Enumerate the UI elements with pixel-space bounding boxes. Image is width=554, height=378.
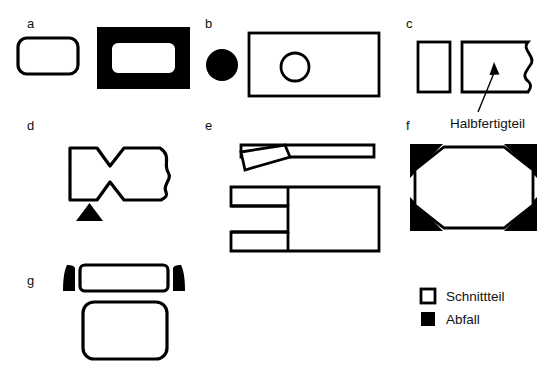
technical-diagram-figure: a b c Halbfertigte	[0, 0, 554, 378]
legend-label-abfall: Abfall	[446, 312, 480, 327]
panel-d-part-shape	[70, 148, 169, 200]
panel-e-label: e	[205, 118, 212, 133]
panel-d-label: d	[27, 118, 34, 133]
panel-c-label: c	[406, 16, 413, 31]
panel-f-label: f	[406, 118, 410, 133]
panel-f-part-octagon	[415, 147, 533, 228]
halbfertigteil-label: Halbfertigteil	[450, 116, 525, 131]
panel-b-part-rect	[249, 33, 379, 96]
panel-b-part-hole	[281, 53, 309, 81]
panel-a-part-rounded-rect	[18, 38, 78, 74]
panel-b-label: b	[205, 16, 212, 31]
panel-g-part-strip	[80, 265, 168, 291]
legend-item-schnittteil: Schnittteil	[421, 289, 505, 304]
panel-b-waste-slug	[206, 49, 238, 81]
legend-label-schnittteil: Schnittteil	[446, 289, 505, 304]
diagram-canvas: a b c Halbfertigte	[0, 0, 554, 378]
legend-swatch-abfall	[421, 312, 435, 326]
panel-g-label: g	[27, 273, 34, 288]
legend-item-abfall: Abfall	[421, 312, 480, 327]
legend-swatch-schnittteil	[421, 289, 435, 303]
panel-g-part-rounded-rect	[83, 302, 167, 359]
panel-c-part-rect	[418, 42, 450, 92]
panel-a-label: a	[27, 16, 35, 31]
panel-c-semifinished-part	[462, 42, 532, 92]
